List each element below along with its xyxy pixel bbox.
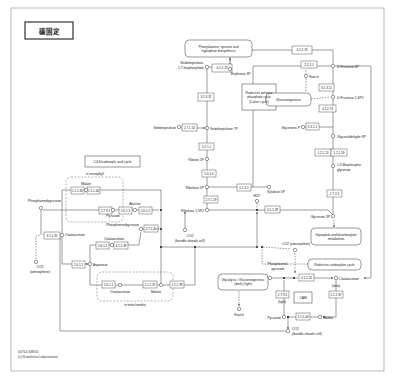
compound-oxaloacetate-cam[interactable] — [334, 276, 337, 279]
enzyme-label-2-6-1-2: 2.6.1.2 — [121, 209, 131, 213]
compound-1-3-bisphosphoglycerate[interactable] — [331, 164, 334, 167]
enzyme-label-2-6-1-1: 2.6.1.1 — [98, 244, 108, 248]
compound-glyceraldehyde-3p[interactable] — [331, 134, 334, 137]
compound-aspartate[interactable] — [88, 262, 91, 265]
enzyme-label-4-1-2-13: 4.1.2.13 — [322, 107, 333, 111]
compound-label-starch-cam: Starch — [234, 313, 244, 317]
enzyme-label-5-3-1-6: 5.3.1.6 — [204, 172, 214, 176]
enzyme-label-2-7-1-40: 2.7.1.40 — [145, 227, 156, 231]
enzyme-label-2-2-1-1: 2.2.1.1 — [202, 145, 212, 149]
label-box-text-calvin-cycle-label: (Calvin cycle) — [249, 100, 269, 104]
enzyme-label-1-1-1-40: 1.1.1.40 — [88, 189, 99, 193]
compound-pyruvate-mesophyll[interactable] — [111, 208, 114, 211]
annotation-3: (dark) — [332, 284, 340, 288]
compound-label-aspartate: Aspartate — [93, 263, 108, 267]
compound-starch-top[interactable] — [304, 74, 307, 77]
compound-pep-cam[interactable] — [268, 276, 271, 279]
compound-label-d-fructose-1-6p2: D-Fructose 1,6P2 — [337, 96, 364, 100]
pathway-link-text-phenylalanine-tyrosine-tryptophan-biosynthesis: tryptophan biosynthesis — [201, 49, 236, 53]
compound-label-pyruvate-cam: Pyruvate — [268, 316, 281, 320]
compound-label-pep-pck: Phosphoenolpyruvate — [106, 223, 139, 227]
compound-label-co2-atmosphere-left: (atmosphere) — [30, 270, 50, 274]
enzyme-label-2-2-1-1: 2.2.1.1 — [304, 63, 314, 67]
compound-ribulose-1-5p2[interactable] — [205, 208, 208, 211]
enzyme-label-1-2-1-13: 1.2.1.13 — [317, 151, 328, 155]
junction-dot — [160, 209, 162, 211]
pathway-link-text-reductive-carboxylate-cycle: Reductive carboxylate cycle — [314, 263, 354, 267]
enzyme-label-2-6-1-2: 2.6.1.2 — [141, 209, 151, 213]
compound-label-co2-bundle-sheath-left: (bundle-sheath cell) — [175, 239, 205, 243]
compound-label-co2-bottom: CO2 — [292, 327, 299, 331]
enzyme-label-2-7-1-19: 2.7.1.19 — [205, 198, 216, 202]
compound-label-sedoheptulose: Sedoheptulose — [153, 126, 176, 130]
enzyme-label-1-1-1-40: 1.1.1.40 — [297, 315, 308, 319]
label-box-text-cam-link: CAM — [299, 296, 307, 300]
enzyme-label-1-1-1-37: 1.1.1.37 — [330, 293, 341, 297]
compound-oxaloacetate-mitochondria[interactable] — [118, 283, 121, 286]
compound-label-malate-mesophyll: Malate — [81, 182, 91, 186]
compound-ribose-5p[interactable] — [205, 157, 208, 160]
compound-label-sedoheptulose-1-7-bisphosphate: Sedoheptulose- — [180, 61, 204, 65]
compound-d-fructose-1-6p2[interactable] — [331, 95, 334, 98]
compound-label-erythrose-4p: Erythrose 4P — [231, 72, 251, 76]
compound-sedoheptulose-1-7-bisphosphate[interactable] — [205, 65, 208, 68]
compound-label-1-3-bisphosphoglycerate: glycerate — [337, 168, 351, 172]
enzyme-label-4-1-1-49: 4.1.1.49 — [115, 244, 126, 248]
compound-pyruvate-cam[interactable] — [282, 315, 285, 318]
compound-label-glycerate-3p: Glycerate 3P — [310, 215, 330, 219]
label-box-text-c4-dicarboxylic-acid-cycle-label: C4-Dicarboxylic acid cycle — [94, 160, 132, 164]
enzyme-label-2-6-1-1: 2.6.1.1 — [104, 283, 114, 287]
compound-erythrose-4p[interactable] — [228, 67, 231, 70]
compound-pep-pck[interactable] — [139, 227, 142, 230]
compound-glycerate-3p[interactable] — [331, 214, 334, 217]
compound-malate-mitochondria[interactable] — [159, 283, 162, 286]
pathway-map-carbon-fixation: 4.1.2.134.1.2.132.2.1.13.1.3.372.7.1.142… — [0, 0, 393, 383]
compound-label-sedoheptulose-7p: Sedoheptulose 7P — [210, 127, 238, 131]
compound-co2-atmosphere-left[interactable] — [34, 260, 37, 263]
compound-label-malate-cam: Malate — [323, 316, 333, 320]
enzyme-label-1-1-1-82: 1.1.1.82 — [72, 189, 83, 193]
compound-label-1-3-bisphosphoglycerate: 1,3-Bisphospho- — [337, 163, 362, 167]
compound-label-oxaloacetate-cam: Oxaloacetate — [339, 277, 359, 281]
enzyme-label-1-2-1-59: 1.2.1.59 — [333, 151, 344, 155]
compound-label-pyruvate-mesophyll: Pyruvate — [106, 214, 119, 218]
compound-label-glyceraldehyde-3p: Glyceraldehyde 3P — [337, 135, 366, 139]
compound-h2o[interactable] — [255, 199, 258, 202]
compound-co2-bottom[interactable] — [286, 329, 289, 332]
compound-xylulose-5p[interactable] — [267, 185, 270, 188]
enzyme-label-1-1-1-39: 1.1.1.39 — [171, 283, 182, 287]
compound-sedoheptulose[interactable] — [177, 125, 180, 128]
compound-label-co2-atmosphere-cam: CO2 (atmosphere) — [282, 242, 310, 246]
enzyme-label-3-1-3-37: 3.1.3.37 — [200, 95, 211, 99]
enzyme-label-4-1-1-39: 4.1.1.39 — [267, 208, 278, 212]
enzyme-label-1-1-1-37: 1.1.1.37 — [144, 283, 155, 287]
compound-malate-cam[interactable] — [318, 315, 321, 318]
compound-d-fructose-6p[interactable] — [331, 64, 334, 67]
enzyme-label-2-6-1-1: 2.6.1.1 — [74, 263, 84, 267]
compound-label-oxaloacetate-mitochondria: Oxaloacetate — [110, 290, 130, 294]
junction-dot — [283, 277, 285, 279]
junction-dot — [256, 246, 258, 248]
compound-label-alanine: Alanine — [129, 202, 140, 206]
pathway-link-text-gluconeogenesis: Gluconeogenesis — [276, 98, 301, 102]
compound-sedoheptulose-7p[interactable] — [205, 126, 208, 129]
junction-dot — [160, 246, 162, 248]
compound-label-sedoheptulose-1-7-bisphosphate: 1,7-bisphosphate — [178, 66, 204, 70]
compound-label-glycerone-p: Glycerone-P — [281, 126, 301, 130]
annotation-1: in mitochondria — [124, 303, 146, 307]
compound-co2-atmosphere-cam[interactable] — [293, 248, 296, 251]
compound-label-co2-atmosphere-left: CO2 — [37, 265, 44, 269]
compound-glycerone-p[interactable] — [301, 125, 304, 128]
enzyme-label-5-3-1-1: 5.3.1.1 — [308, 125, 318, 129]
compound-oxaloacetate-pck[interactable] — [110, 243, 113, 246]
compound-ribulose-5p[interactable] — [205, 185, 208, 188]
compound-label-pep-cam: pyruvate — [271, 267, 284, 271]
compound-label-ribose-5p: Ribose 5P — [188, 158, 204, 162]
compound-alanine[interactable] — [133, 208, 136, 211]
compound-co2-bundle-sheath-left[interactable] — [183, 228, 186, 231]
compound-starch-cam[interactable] — [237, 307, 240, 310]
compound-oxaloacetate-mesophyll[interactable] — [60, 233, 63, 236]
annotation-0: in mesophyll — [86, 172, 104, 176]
compound-pep-mesophyll[interactable] — [39, 206, 42, 209]
copyright: (c) Kanehisa Laboratories — [18, 355, 58, 359]
